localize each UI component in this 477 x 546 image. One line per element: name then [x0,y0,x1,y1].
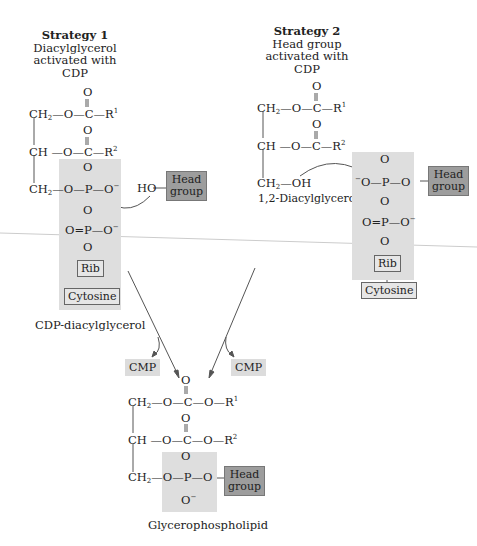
s1-row1: CH2—O—C—R1 [29,108,118,122]
s2-head-group: Head group [428,166,469,196]
s2-row3: CH2—OH [257,178,311,191]
s2-o-top3: O [380,154,389,166]
product-label: Glycerophospholipid [148,520,268,532]
s1-o-top1: O [83,87,92,99]
strategy2-title-block: Strategy 2 Head group activated with CDP [262,25,352,75]
s1-o-bridge: O [83,205,92,217]
cmp-right: CMP [231,359,266,376]
s2-row2: CH —O—C—R2 [257,140,345,153]
p-o-top3: O [181,451,190,463]
s2-cytosine-box: Cytosine [361,282,417,299]
s1-head-group: Head group [166,171,207,201]
s2-o-top1: O [312,81,321,93]
s1-o-top3: O [83,162,92,174]
p-row3: CH2—O—P—O [128,472,212,485]
s1-cytosine-box: Cytosine [64,288,120,305]
cmp-left: CMP [125,359,160,376]
s1-row2: CH —O—C—R2 [29,146,117,159]
s2-phosphate2: O=P—O− [362,216,416,229]
s2-phosphate1: −O—P—O [355,176,410,189]
s1-o-ribose: O [83,242,92,254]
p-o-top1: O [181,375,190,387]
s2-o-bridge: O [380,196,389,208]
s1-row3: CH2—O—P—O− [29,183,119,197]
p-row2: CH —O—C—O—R2 [128,434,237,447]
p-o-top2: O [181,413,190,425]
s1-rib-box: Rib [77,260,104,277]
strategy1-desc3: CDP [62,66,88,80]
s2-label: 1,2-Diacylglycerol [258,193,359,204]
s2-rib-box: Rib [374,255,401,272]
s1-o-top2: O [83,125,92,137]
s1-label: CDP-diacylglycerol [35,320,145,332]
s2-o-ribose: O [380,236,389,248]
p-row1: CH2—O—C—O—R1 [128,396,238,410]
strategy2-desc3: CDP [294,62,320,76]
s1-row4: O=P—O− [65,224,119,237]
s2-row1: CH2—O—C—R1 [257,102,346,116]
product-head-group: Head group [224,466,265,496]
s2-o-top2: O [312,119,321,131]
p-o-minus: O− [181,494,196,507]
s1-ho: HO [137,183,156,195]
strategy1-title-block: Strategy 1 Diacylglycerol activated with… [30,29,120,79]
